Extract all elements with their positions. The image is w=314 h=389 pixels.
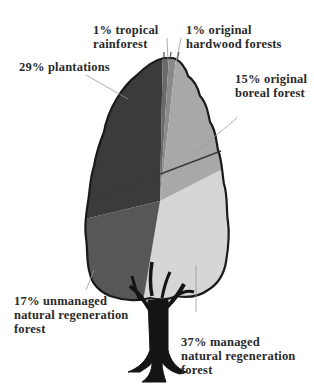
- label-hardwood-line2: hardwood forests: [186, 37, 282, 51]
- label-unmanaged: 17% unmanaged natural regeneration fores…: [14, 294, 129, 336]
- label-tropical: 1% tropical rainforest: [93, 23, 159, 51]
- label-tropical-line2: rainforest: [93, 37, 159, 51]
- label-tropical-line1: 1% tropical: [93, 23, 159, 37]
- label-unmanaged-line1: 17% unmanaged: [14, 294, 129, 308]
- label-unmanaged-line3: forest: [14, 322, 129, 336]
- label-managed-line1: 37% managed: [181, 335, 296, 349]
- label-hardwood-line1: 1% original: [186, 23, 282, 37]
- label-boreal: 15% original boreal forest: [235, 72, 307, 100]
- label-unmanaged-line2: natural regeneration: [14, 308, 129, 322]
- label-plantations-line1: 29% plantations: [19, 60, 110, 74]
- label-managed-line3: forest: [181, 363, 296, 377]
- label-boreal-line1: 15% original: [235, 72, 307, 86]
- label-managed-line2: natural regeneration: [181, 349, 296, 363]
- label-managed: 37% managed natural regeneration forest: [181, 335, 296, 377]
- label-hardwood: 1% original hardwood forests: [186, 23, 282, 51]
- label-boreal-line2: boreal forest: [235, 86, 307, 100]
- label-plantations: 29% plantations: [19, 60, 110, 74]
